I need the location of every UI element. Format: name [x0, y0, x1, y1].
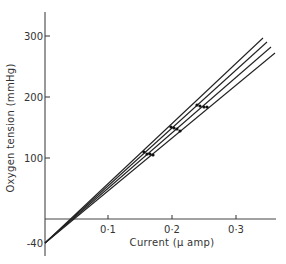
- y-tick-300: 300: [24, 31, 43, 42]
- y-ticks: 300 200 100 -40: [24, 31, 50, 249]
- x-tick-0-2: 0·2: [164, 224, 180, 235]
- x-tick-0-1: 0·1: [100, 224, 116, 235]
- x-axis-label: Current (μ amp): [130, 237, 215, 248]
- series-line-3: [45, 47, 271, 243]
- y-tick-minus-40: -40: [27, 238, 43, 249]
- oxygen-calibration-chart: 300 200 100 -40 0·1 0·2 0·3 Current (μ a…: [0, 0, 286, 264]
- y-tick-100: 100: [24, 153, 43, 164]
- series-line-1: [45, 38, 263, 243]
- y-tick-200: 200: [24, 92, 43, 103]
- x-tick-0-3: 0·3: [228, 224, 244, 235]
- series-line-2: [45, 42, 267, 243]
- series-line-4: [45, 53, 275, 243]
- calibration-lines: [45, 38, 275, 243]
- y-axis-label: Oxygen tension (mmHg): [5, 63, 16, 192]
- x-ticks: 0·1 0·2 0·3: [100, 215, 244, 235]
